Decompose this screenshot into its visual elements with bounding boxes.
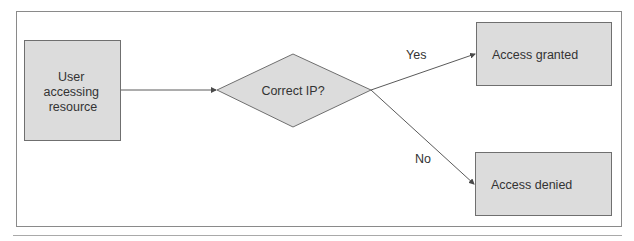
node-user-label-line-1: User bbox=[58, 70, 84, 84]
node-denied: Access denied bbox=[476, 153, 612, 216]
edge-label-yes: Yes bbox=[406, 48, 426, 62]
flowchart-canvas: User accessing resource Correct IP? Acce… bbox=[0, 0, 634, 241]
node-user-label-line-2: accessing bbox=[43, 85, 99, 99]
node-decision-label: Correct IP? bbox=[261, 84, 324, 98]
node-denied-label: Access denied bbox=[491, 178, 572, 192]
node-user-label-line-3: resource bbox=[49, 100, 98, 114]
node-granted-label: Access granted bbox=[492, 48, 578, 62]
edge-label-no: No bbox=[415, 152, 431, 166]
node-user: User accessing resource bbox=[25, 41, 121, 141]
node-granted: Access granted bbox=[477, 23, 612, 86]
